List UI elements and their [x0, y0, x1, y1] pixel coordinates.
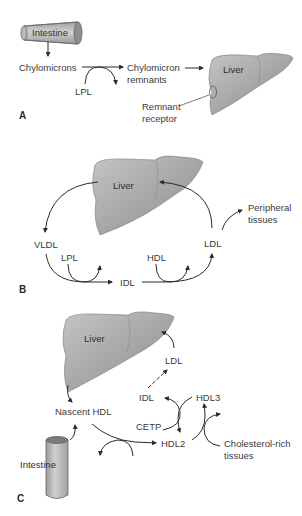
panel-b [45, 156, 242, 282]
vldl-label: VLDL [34, 239, 58, 250]
lpl-label-b: LPL [61, 252, 78, 263]
hdl3-label: HDL3 [196, 392, 220, 403]
panel-label-b: B [19, 284, 26, 295]
liver-c-icon [63, 312, 174, 392]
chylomicron-remnants-label-1: Chylomicron [127, 62, 180, 73]
cholesterol-rich-tissues-label-1: Cholesterol-rich [224, 438, 291, 449]
cholesterol-rich-tissues-label-2: tissues [224, 450, 254, 461]
intestine-label-c: Intestine [20, 459, 56, 470]
panel-label-a: A [19, 110, 26, 121]
liver-a-icon [209, 53, 293, 115]
nascent-hdl-label: Nascent HDL [55, 406, 112, 417]
hdl-label-b: HDL [147, 252, 166, 263]
chylomicron-remnants-label-2: remnants [127, 74, 167, 85]
remnant-receptor-label-1: Remnant [142, 101, 181, 112]
chylomicrons-label: Chylomicrons [19, 62, 77, 73]
lpl-label-a: LPL [75, 86, 92, 97]
ldl-label-b: LDL [204, 238, 221, 249]
peripheral-tissues-label-1: Peripheral [248, 202, 291, 213]
liver-label-a: Liver [223, 64, 244, 75]
intestine-label-a: Intestine [32, 27, 68, 38]
hdl2-label: HDL2 [161, 438, 185, 449]
peripheral-tissues-label-2: tissues [248, 214, 278, 225]
idl-label-b: IDL [120, 277, 135, 288]
idl-label-c: IDL [139, 392, 154, 403]
liver-label-b: Liver [113, 180, 134, 191]
liver-label-c: Liver [84, 333, 105, 344]
panel-label-c: C [17, 493, 24, 504]
cetp-label: CETP [136, 421, 161, 432]
ldl-label-c: LDL [165, 355, 182, 366]
liver-b-icon [93, 156, 203, 235]
remnant-receptor-label-2: receptor [142, 113, 177, 124]
